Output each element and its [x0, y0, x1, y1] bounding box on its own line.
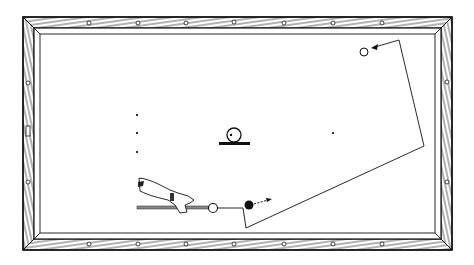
- target-ball-icon: [360, 48, 368, 56]
- billiard-diagram: [0, 0, 474, 265]
